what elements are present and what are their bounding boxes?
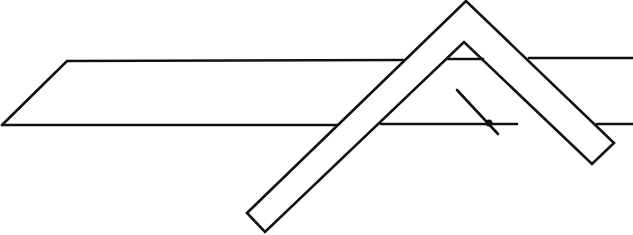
plane: [2, 58, 633, 125]
diagram-canvas: [0, 0, 633, 235]
arrow-line: [457, 90, 498, 134]
plane-left-and-top-edge: [2, 60, 403, 125]
bent-bar-outline: [247, 1, 614, 232]
arrow-marker: [457, 90, 498, 134]
arrow-dot: [486, 120, 493, 127]
bent-bar: [247, 1, 614, 232]
plane-and-bar-diagram: [0, 0, 633, 235]
